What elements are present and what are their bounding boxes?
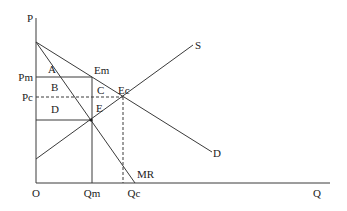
supply-demand-diagram: P Q O Pm Pc Qm Qc S D MR Em Ec A B C D E <box>0 0 347 211</box>
area-c-label: C <box>97 84 104 96</box>
mr-curve-label: MR <box>137 168 155 180</box>
quantity-axis-label: Q <box>313 187 321 199</box>
area-a-label: A <box>48 63 56 75</box>
supply-curve <box>36 45 193 159</box>
competitive-equilibrium-label: Ec <box>118 84 130 96</box>
monopoly-quantity-label: Qm <box>84 187 101 199</box>
area-d-label: D <box>51 103 59 115</box>
competitive-quantity-label: Qc <box>128 187 141 199</box>
monopoly-price-label: Pm <box>18 71 33 83</box>
supply-curve-label: S <box>195 39 201 51</box>
area-b-label: B <box>51 81 58 93</box>
demand-curve-label: D <box>213 147 221 159</box>
area-e-label: E <box>96 102 103 114</box>
monopoly-equilibrium-label: Em <box>94 64 110 76</box>
competitive-price-label: Pc <box>22 91 33 103</box>
point-e-marker <box>89 118 92 121</box>
price-axis-label: P <box>27 12 33 24</box>
origin-label: O <box>32 187 40 199</box>
